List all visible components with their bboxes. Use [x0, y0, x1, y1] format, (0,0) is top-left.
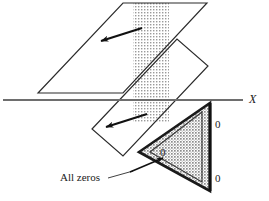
leader-line-all-zeros [108, 171, 133, 178]
x-axis-label: X [249, 93, 256, 105]
zero-label-top: 0 [215, 119, 221, 130]
zero-label-bottom: 0 [215, 173, 221, 184]
arrow-callout [130, 158, 163, 172]
zero-label-inner: 0 [160, 147, 166, 158]
all-zeros-label: All zeros [60, 172, 100, 183]
parallelogram-upper [38, 3, 207, 93]
diagram-svg [0, 0, 269, 201]
figure-canvas: X 0 0 0 All zeros [0, 0, 269, 201]
